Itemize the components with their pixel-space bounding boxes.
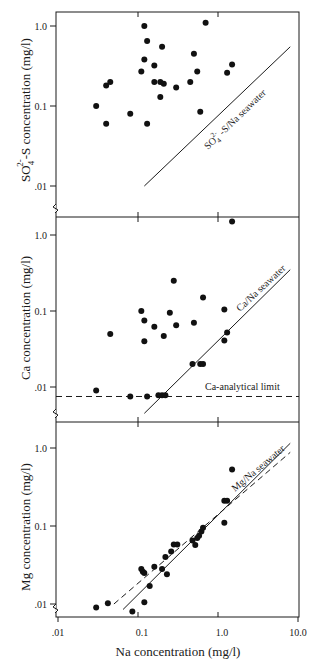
data-point <box>173 85 179 91</box>
seawater-ratio-line <box>144 47 290 186</box>
y-tick-label: 0.1 <box>35 101 48 112</box>
data-point <box>141 599 147 605</box>
plot-frames <box>56 12 299 617</box>
data-point <box>200 361 206 367</box>
data-point <box>141 338 147 344</box>
data-point <box>93 103 99 109</box>
data-point <box>129 609 135 615</box>
data-point <box>151 564 157 570</box>
so4-panel: .010.11.0 <box>35 12 291 217</box>
data-point <box>162 554 168 560</box>
y-tick-label: 0.1 <box>35 521 48 532</box>
data-point <box>224 70 230 76</box>
data-point <box>221 306 227 312</box>
data-point <box>93 605 99 611</box>
data-point <box>192 542 198 548</box>
data-point <box>93 387 99 393</box>
data-point <box>151 79 157 85</box>
data-point <box>141 570 147 576</box>
data-point <box>200 525 206 531</box>
data-point <box>167 310 173 316</box>
data-point <box>159 566 165 572</box>
data-point <box>138 68 144 74</box>
data-point <box>161 333 167 339</box>
x-tick-01: 0.1 <box>136 627 149 638</box>
data-point <box>224 330 230 336</box>
data-point <box>189 361 195 367</box>
x-tick-10: 10.0 <box>289 627 307 638</box>
bot-y-axis-label: Mg concentration (mg/l) <box>18 463 33 591</box>
data-point <box>203 20 209 26</box>
ca-seawater-label: Ca/Na seawater <box>234 262 288 313</box>
data-point <box>151 324 157 330</box>
x-tick-001: .01 <box>52 627 65 638</box>
data-point <box>147 583 153 589</box>
data-point <box>191 320 197 326</box>
data-point <box>162 392 168 398</box>
data-point <box>194 68 200 74</box>
axis-break-icon <box>53 409 58 418</box>
data-point <box>224 498 230 504</box>
data-point <box>141 57 147 63</box>
top-y-axis-label: SO42--S concentration (mg/l) <box>15 38 36 182</box>
data-point <box>229 467 235 473</box>
mg-panel: .010.11.0 <box>35 422 299 622</box>
data-point <box>107 331 113 337</box>
mid-y-axis-label: Ca concentration (mg/l) <box>18 256 33 380</box>
y-tick-label: .01 <box>35 382 48 393</box>
data-point <box>200 295 206 301</box>
data-point <box>229 62 235 68</box>
x-tick-1: 1.0 <box>216 627 229 638</box>
data-point <box>105 600 111 606</box>
data-point <box>144 121 150 127</box>
data-point <box>171 278 177 284</box>
data-point <box>229 219 235 225</box>
data-point <box>221 520 227 526</box>
data-point <box>173 322 179 328</box>
data-point <box>144 393 150 399</box>
so4-seawater-label: SO42- -S/Na seawater <box>200 85 270 154</box>
axis-break-icon <box>53 604 58 613</box>
data-point <box>164 571 170 577</box>
data-point <box>151 63 157 69</box>
axis-break-icon <box>53 204 58 213</box>
x-axis-label: Na concentration (mg/l) <box>116 644 241 659</box>
data-point <box>127 393 133 399</box>
y-tick-label: 1.0 <box>35 443 48 454</box>
y-tick-label: 1.0 <box>35 21 48 32</box>
data-point <box>161 81 167 87</box>
data-point <box>159 44 165 50</box>
ca-analytical-limit-label: Ca-analytical limit <box>205 381 280 392</box>
y-tick-label: .01 <box>35 599 48 610</box>
y-tick-label: .01 <box>35 181 48 192</box>
mg-seawater-label: Mg/Na seawater <box>229 442 287 493</box>
data-point <box>138 308 144 314</box>
data-point <box>141 317 147 323</box>
y-tick-label: 1.0 <box>35 230 48 241</box>
data-point <box>191 51 197 57</box>
data-point <box>174 541 180 547</box>
figure: .010.11.0 .010.11.0 .010.11.0 SO42--S co… <box>0 0 320 668</box>
data-point <box>103 121 109 127</box>
data-point <box>141 23 147 29</box>
y-tick-label: 0.1 <box>35 306 48 317</box>
data-point <box>221 337 227 343</box>
data-point <box>197 109 203 115</box>
data-point <box>187 79 193 85</box>
data-point <box>127 111 133 117</box>
data-point <box>144 38 150 44</box>
data-point <box>107 79 113 85</box>
data-point <box>168 549 174 555</box>
data-point <box>157 94 163 100</box>
